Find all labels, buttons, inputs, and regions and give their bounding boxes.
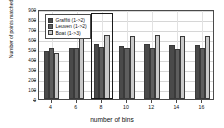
y-axis-tick-mark [33, 100, 36, 101]
y-axis-tick-mark [33, 30, 36, 31]
bar [54, 53, 59, 100]
x-axis-tick-label: 16 [191, 104, 211, 110]
highlight-box [91, 13, 113, 99]
bar-group [119, 11, 135, 99]
x-axis-tick-mark [176, 100, 177, 103]
legend: Graffiti (1->2) Leuven (1->2) Boat (1->3… [45, 14, 91, 39]
x-axis-tick-mark [201, 100, 202, 103]
x-axis-tick-mark [76, 100, 77, 103]
bar [205, 36, 210, 99]
y-axis-tick-label: 400 [2, 58, 36, 63]
y-axis-tick-label: 800 [2, 18, 36, 23]
y-axis-tick-mark [33, 90, 36, 91]
legend-swatch-boat [48, 30, 53, 35]
bar [155, 35, 160, 99]
legend-label-boat: Boat (1->3) [56, 30, 81, 36]
y-axis-tick-label: 600 [2, 38, 36, 43]
y-axis-tick-label: 100 [2, 88, 36, 93]
x-axis-tick-mark [151, 100, 152, 103]
y-axis-tick-labels: 0100200300400500600700800900 [0, 10, 36, 100]
bar-group [144, 11, 160, 99]
bar [180, 36, 185, 100]
x-axis-tick-label: 10 [116, 104, 136, 110]
legend-swatch-graffiti [48, 18, 53, 23]
y-axis-tick-mark [33, 20, 36, 21]
chart-figure: Number of points matched 010020030040050… [0, 0, 224, 128]
y-axis-tick-label: 500 [2, 48, 36, 53]
y-axis-tick-mark [33, 10, 36, 11]
bar-group [195, 11, 211, 99]
x-axis-tick-labels: 46810121416 [38, 100, 214, 114]
y-axis-tick-mark [33, 40, 36, 41]
y-axis-tick-label: 0 [2, 98, 36, 103]
plot-area: Graffiti (1->2) Leuven (1->2) Boat (1->3… [38, 10, 214, 100]
y-axis-tick-label: 900 [2, 8, 36, 13]
x-axis-tick-label: 12 [141, 104, 161, 110]
y-axis-tick-label: 700 [2, 28, 36, 33]
x-axis-tick-label: 8 [91, 104, 111, 110]
x-axis-title: number of bins [0, 116, 224, 123]
x-axis-tick-label: 14 [166, 104, 186, 110]
y-axis-tick-label: 200 [2, 78, 36, 83]
x-axis-tick-label: 6 [66, 104, 86, 110]
x-axis-tick-mark [101, 100, 102, 103]
bar-group [169, 11, 185, 99]
y-axis-tick-mark [33, 70, 36, 71]
y-axis-tick-mark [33, 80, 36, 81]
y-axis-tick-mark [33, 50, 36, 51]
x-axis-tick-label: 4 [41, 104, 61, 110]
x-axis-tick-mark [51, 100, 52, 103]
bar [130, 36, 135, 100]
y-axis-tick-label: 300 [2, 68, 36, 73]
legend-swatch-leuven [48, 24, 53, 29]
legend-item: Boat (1->3) [48, 30, 87, 36]
y-axis-tick-mark [33, 60, 36, 61]
x-axis-tick-mark [126, 100, 127, 103]
bar [79, 38, 84, 100]
